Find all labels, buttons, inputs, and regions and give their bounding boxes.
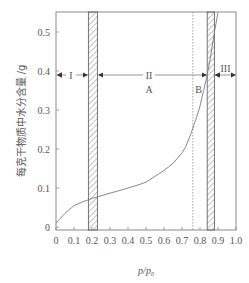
x-tick-label: 0.6	[158, 235, 171, 246]
x-axis-title: p/p0	[137, 265, 154, 277]
x-tick-label: 0.1	[68, 235, 81, 246]
y-tick-label: 0.4	[38, 66, 51, 77]
x-tick-label: 0.3	[104, 235, 117, 246]
hatched-band-2	[207, 12, 214, 230]
region-1-label: I	[69, 70, 72, 81]
isotherm-curve	[56, 13, 218, 224]
x-tick-label: 0.4	[122, 235, 135, 246]
x-tick-label: 0.7	[176, 235, 189, 246]
y-tick-label: 0	[45, 222, 50, 233]
y-tick-label: 0.2	[38, 144, 51, 155]
region-3-label: III	[221, 63, 231, 74]
zone-a-label: A	[145, 84, 153, 95]
x-tick-label: 0.2	[86, 235, 99, 246]
y-axis-title: 每克干物质中水分含量 /g	[15, 65, 27, 178]
x-tick-label: 0.5	[140, 235, 153, 246]
sorption-isotherm-chart: 00.10.20.30.40.5 00.10.20.30.40.50.60.70…	[0, 0, 249, 283]
x-tick-label: 0	[54, 235, 59, 246]
x-tick-label: 1.0	[230, 235, 243, 246]
x-tick-label: 0.8	[194, 235, 207, 246]
x-tick-label: 0.9	[212, 235, 225, 246]
y-tick-label: 0.5	[38, 27, 51, 38]
y-tick-label: 0.3	[38, 105, 51, 116]
region-2-label: II	[146, 70, 153, 81]
y-tick-label: 0.1	[38, 183, 51, 194]
zone-b-label: B	[195, 84, 202, 95]
